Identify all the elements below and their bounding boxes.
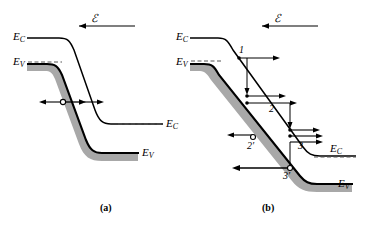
panel-b-hole-2prime-label: 2′: [247, 141, 254, 151]
panel-b-valence-band-fill: [190, 64, 352, 192]
panel-b-hole-carrier-1: [251, 135, 256, 140]
panel-a-label-ev-left: EV: [13, 56, 25, 69]
panel-b-step-2-label: 2: [269, 104, 274, 114]
panel-a-label-ec-right: EC: [166, 118, 178, 131]
panel-b-step-3-label: 3: [298, 141, 303, 151]
panel-b-label-ec-left: EC: [176, 31, 188, 44]
panel-a-label-ec-left: EC: [13, 31, 25, 44]
panel-b-hole-3prime-label: 3′: [283, 171, 290, 181]
panel-b-field-symbol: ℰ: [274, 13, 281, 24]
panel-a-valence-band-fill: [27, 64, 138, 161]
panel-a-field-arrow: [79, 23, 135, 29]
panel-b-label-ev-left: EV: [176, 56, 188, 69]
panel-b-caption: (b): [262, 203, 274, 213]
panel-b-field-arrow: [262, 23, 318, 29]
panel-b-electron-step-1: [237, 56, 280, 95]
panel-b-label-ec-right: EC: [330, 143, 342, 156]
panel-a-caption: (a): [100, 203, 112, 213]
panel-b-hole-step-2prime: [227, 133, 256, 140]
panel-a-hole-carrier: [60, 99, 65, 104]
panel-a-conduction-band-edge: [27, 38, 163, 124]
panel-a-field-symbol: ℰ: [91, 13, 98, 24]
panel-a: [27, 23, 163, 161]
panel-b-label-ev-right: EV: [338, 178, 350, 191]
panel-a-label-ev-right: EV: [142, 147, 154, 160]
panel-b-step-1-label: 1: [239, 45, 244, 55]
